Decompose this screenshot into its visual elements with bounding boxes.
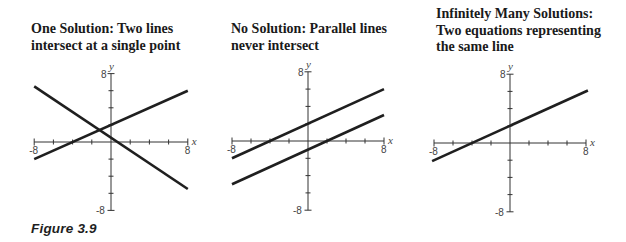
graph-one-solution: -888-8xy — [29, 60, 197, 217]
y-axis-name: y — [108, 60, 114, 72]
x-max-label: 8 — [381, 144, 387, 155]
y-max-label: 8 — [298, 67, 304, 78]
x-max-label: 8 — [583, 146, 589, 157]
x-axis-name: x — [191, 135, 197, 147]
y-max-label: 8 — [500, 69, 506, 80]
y-max-label: 8 — [101, 69, 107, 80]
x-min-label: -8 — [227, 144, 236, 155]
figure-caption: Figure 3.9 — [31, 221, 97, 236]
y-min-label: -8 — [495, 207, 504, 218]
y-axis-name: y — [507, 60, 513, 72]
graph-infinitely-many: -888-8xy — [429, 60, 595, 218]
x-max-label: 8 — [185, 145, 191, 156]
x-axis-name: x — [387, 134, 393, 146]
y-axis-name: y — [305, 58, 311, 70]
graphs-canvas: -888-8xy -888-8xy -888-8xy — [0, 0, 626, 242]
y-min-label: -8 — [293, 205, 302, 216]
x-axis-name: x — [589, 136, 595, 148]
x-min-label: -8 — [429, 146, 438, 157]
y-min-label: -8 — [96, 205, 105, 216]
x-min-label: -8 — [29, 145, 38, 156]
graph-no-solution: -888-8xy — [227, 58, 393, 216]
